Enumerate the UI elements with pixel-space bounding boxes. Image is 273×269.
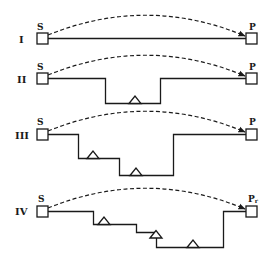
- target-box-icon: [246, 33, 257, 44]
- source-box-icon: [37, 206, 48, 217]
- target-box-icon: [246, 129, 257, 140]
- solid-path: [48, 79, 246, 104]
- row-iii: III S P: [15, 111, 257, 175]
- source-box-icon: [37, 73, 48, 84]
- target-label: P: [249, 22, 256, 32]
- intermediate-triangle-icon: [129, 96, 141, 104]
- pathway-diagram: I S P II S P III S P IV S Pr: [0, 0, 273, 269]
- target-label: P: [249, 62, 256, 72]
- target-label: P: [249, 117, 256, 127]
- intermediate-triangle-icon: [98, 217, 110, 225]
- source-box-icon: [37, 33, 48, 44]
- source-label: S: [38, 194, 45, 204]
- target-box-icon: [246, 73, 257, 84]
- row-i: I S P: [19, 15, 257, 45]
- target-label-subscript: r: [255, 197, 259, 204]
- intermediate-triangle-icon: [187, 240, 199, 248]
- dashed-arc: [48, 15, 245, 36]
- intermediate-triangle-icon: [87, 151, 99, 159]
- dashed-arc: [48, 188, 245, 209]
- solid-path: [48, 212, 246, 248]
- row-label: III: [15, 130, 29, 141]
- intermediate-triangle-icon: [130, 168, 142, 176]
- source-box-icon: [37, 129, 48, 140]
- row-ii: II S P: [17, 55, 257, 103]
- target-label: Pr: [248, 194, 259, 204]
- source-label: S: [37, 62, 44, 72]
- source-label: S: [37, 117, 44, 127]
- row-label: I: [19, 34, 24, 45]
- row-iv: IV S Pr: [15, 188, 259, 247]
- solid-path: [48, 135, 246, 176]
- intermediate-triangle-icon: [150, 231, 162, 239]
- dashed-arc: [48, 55, 245, 76]
- target-box-icon: [246, 206, 257, 217]
- row-label: IV: [15, 206, 28, 217]
- source-label: S: [37, 22, 44, 32]
- dashed-arc: [48, 111, 245, 132]
- row-label: II: [17, 74, 27, 85]
